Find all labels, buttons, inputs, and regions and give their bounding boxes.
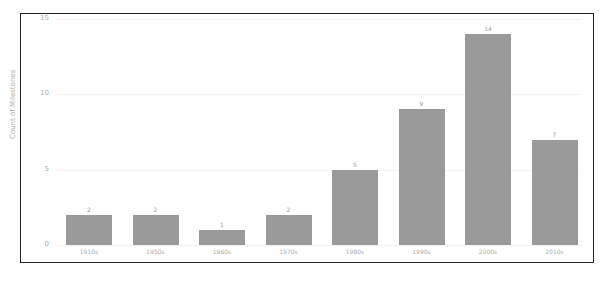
bar-value-label: 14 bbox=[465, 25, 511, 32]
x-tick-label: 1970s bbox=[266, 248, 312, 255]
bar-1990s[interactable] bbox=[399, 109, 445, 245]
y-tick-label: 15 bbox=[29, 14, 49, 22]
bar-1970s[interactable] bbox=[266, 215, 312, 245]
x-tick-label: 1950s bbox=[133, 248, 179, 255]
bar-2000s[interactable] bbox=[465, 34, 511, 245]
bar-1910s[interactable] bbox=[66, 215, 112, 245]
gridline bbox=[57, 245, 581, 246]
bar-value-label: 2 bbox=[266, 206, 312, 213]
x-tick-label: 1980s bbox=[332, 248, 378, 255]
bar-2010s[interactable] bbox=[532, 140, 578, 245]
x-tick-label: 1990s bbox=[399, 248, 445, 255]
x-tick-label: 1960s bbox=[199, 248, 245, 255]
y-tick-label: 5 bbox=[29, 165, 49, 173]
bar-1980s[interactable] bbox=[332, 170, 378, 245]
bar-1960s[interactable] bbox=[199, 230, 245, 245]
bar-value-label: 1 bbox=[199, 221, 245, 228]
y-axis-label: Count of Milestones bbox=[9, 70, 17, 139]
y-tick-label: 10 bbox=[29, 89, 49, 97]
x-tick-label: 2000s bbox=[465, 248, 511, 255]
x-tick-label: 1910s bbox=[66, 248, 112, 255]
chart-frame: Count of Milestones 05101521910s21950s11… bbox=[20, 13, 594, 263]
bar-1950s[interactable] bbox=[133, 215, 179, 245]
bar-value-label: 2 bbox=[66, 206, 112, 213]
bar-value-label: 7 bbox=[532, 131, 578, 138]
gridline bbox=[57, 19, 581, 20]
y-tick-label: 0 bbox=[29, 240, 49, 248]
x-tick-label: 2010s bbox=[532, 248, 578, 255]
bar-value-label: 9 bbox=[399, 100, 445, 107]
bar-value-label: 5 bbox=[332, 161, 378, 168]
bar-value-label: 2 bbox=[133, 206, 179, 213]
